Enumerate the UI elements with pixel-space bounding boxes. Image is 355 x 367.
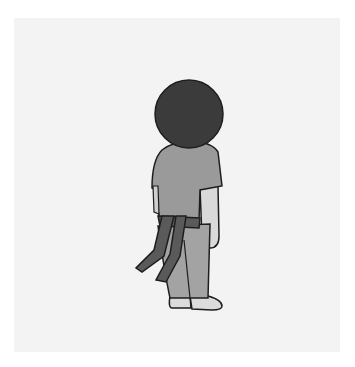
figure-illustration: [0, 0, 355, 367]
head: [155, 80, 223, 148]
left-arm: [153, 186, 159, 214]
